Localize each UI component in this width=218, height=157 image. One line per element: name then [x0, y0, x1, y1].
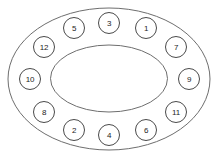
numbered-node[interactable]: 10: [20, 69, 41, 90]
node-label: 12: [40, 43, 49, 52]
numbered-node[interactable]: 9: [179, 69, 200, 90]
numbered-node[interactable]: 7: [166, 37, 187, 58]
numbered-nodes-group: 317911642810125: [20, 13, 200, 146]
numbered-node[interactable]: 11: [166, 102, 187, 123]
ring-diagram-canvas: 317911642810125: [0, 0, 218, 157]
numbered-node[interactable]: 3: [99, 13, 120, 34]
node-label: 11: [172, 108, 181, 117]
numbered-node[interactable]: 6: [136, 120, 157, 141]
numbered-node[interactable]: 12: [34, 37, 55, 58]
numbered-node[interactable]: 2: [64, 120, 85, 141]
numbered-node[interactable]: 8: [34, 102, 55, 123]
node-label: 10: [26, 75, 35, 84]
numbered-node[interactable]: 4: [99, 125, 120, 146]
inner-ellipse: [51, 45, 168, 112]
numbered-node[interactable]: 5: [64, 18, 85, 39]
numbered-node[interactable]: 1: [136, 18, 157, 39]
ring-diagram: 317911642810125: [0, 0, 218, 157]
